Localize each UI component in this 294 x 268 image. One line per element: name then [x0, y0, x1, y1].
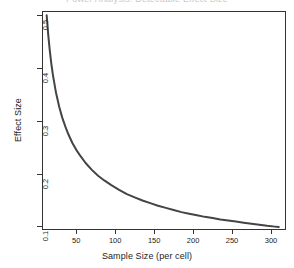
x-tick-label: 200	[187, 236, 200, 245]
data-series-line	[47, 15, 279, 227]
x-tick-label: 300	[265, 236, 278, 245]
plot-frame	[43, 12, 286, 230]
y-tick-label: 0.3	[41, 126, 50, 136]
y-tick-label: 0.5	[41, 20, 50, 30]
y-tick-label: 0.4	[41, 73, 50, 83]
y-tick-label: 0.2	[41, 178, 50, 188]
y-axis-title: Effect Size	[12, 0, 24, 240]
x-tick-label: 150	[148, 236, 161, 245]
chart-figure: Power Analysis: Detectable Effect Size 0…	[0, 0, 294, 268]
x-tick-label: 100	[109, 236, 122, 245]
x-axis-title: Sample Size (per cell)	[0, 251, 294, 261]
x-tick-label: 250	[226, 236, 239, 245]
x-tick-label: 50	[72, 236, 80, 245]
y-tick-label: 0.1	[41, 231, 50, 241]
